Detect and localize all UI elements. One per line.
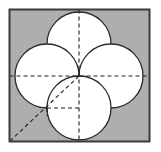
figure-canvas (0, 0, 161, 152)
geometry-figure (0, 0, 161, 152)
